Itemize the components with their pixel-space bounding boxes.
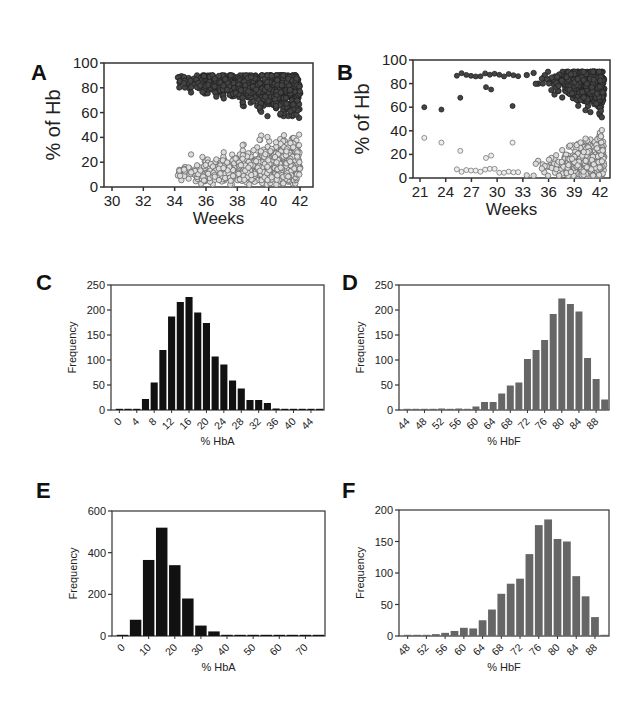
hba-point <box>516 170 521 175</box>
y-tick-label: 100 <box>375 567 393 579</box>
hbf-point <box>580 89 585 94</box>
histogram-bar <box>203 323 210 410</box>
histogram-bar <box>117 635 128 636</box>
x-tick-label: 40 <box>215 641 232 658</box>
x-tick-label: 33 <box>515 183 532 200</box>
histogram-bar <box>212 357 219 411</box>
x-tick-label: 52 <box>429 415 446 432</box>
hba-point <box>575 163 580 168</box>
histogram-bar <box>313 635 324 636</box>
hba-point <box>458 148 463 153</box>
x-tick-label: 56 <box>446 415 463 432</box>
histogram-bar <box>413 635 421 636</box>
histogram-bar <box>208 631 219 636</box>
hbf-point <box>556 83 561 88</box>
hba-point <box>295 154 300 159</box>
x-tick-label: 68 <box>498 415 515 432</box>
histogram-bar <box>125 409 132 410</box>
y-tick-label: 50 <box>381 599 393 611</box>
hba-point <box>214 157 219 162</box>
x-axis-label: % HbA <box>201 661 236 673</box>
x-tick-label: 24 <box>437 183 454 200</box>
hba-point <box>539 166 544 171</box>
hba-point <box>599 159 604 164</box>
hbf-point <box>591 77 596 82</box>
y-tick-label: 80 <box>390 75 407 92</box>
histogram-bar <box>290 409 297 410</box>
hbf-point <box>506 72 511 77</box>
histogram-bar <box>421 409 428 410</box>
histogram-bar <box>238 389 245 411</box>
hbf-point <box>205 82 210 87</box>
hba-point <box>569 156 574 161</box>
hba-point <box>600 148 605 153</box>
x-tick-label: 34 <box>166 192 183 209</box>
hbf-point <box>599 115 604 120</box>
hbf-point <box>214 94 219 99</box>
hbf-point <box>422 105 427 110</box>
hba-point <box>285 174 290 179</box>
hba-point <box>240 143 245 148</box>
hbf-point <box>238 87 243 92</box>
y-tick-label: 200 <box>375 504 393 516</box>
histogram-bar <box>593 379 600 410</box>
hbf-point <box>221 96 226 101</box>
x-tick-label: 4 <box>129 415 142 428</box>
hbf-point <box>459 71 464 76</box>
hba-point <box>281 181 286 186</box>
hbf-point <box>516 74 521 79</box>
hbf-point <box>281 73 286 78</box>
y-tick-label: 150 <box>87 329 105 341</box>
hbf-point <box>464 72 469 77</box>
hba-point <box>422 135 427 140</box>
x-axis-label: Weeks <box>193 209 245 228</box>
hbf-point <box>240 95 245 100</box>
histogram-bar <box>229 381 236 411</box>
y-tick-label: 80 <box>81 79 98 96</box>
hba-point <box>567 143 572 148</box>
x-tick-label: 84 <box>564 641 581 658</box>
hba-point <box>273 140 278 145</box>
hbf-point <box>221 83 226 88</box>
hbf-point <box>531 70 536 75</box>
hbf-point <box>275 77 280 82</box>
x-tick-label: 39 <box>566 183 583 200</box>
hba-point <box>181 167 186 172</box>
hba-point <box>581 149 586 154</box>
hbf-point <box>492 71 497 76</box>
hba-point <box>268 149 273 154</box>
histogram-bar <box>220 365 227 411</box>
hba-point <box>198 168 203 173</box>
hbf-point <box>489 87 494 92</box>
histogram-bar <box>130 620 141 636</box>
hbf-point <box>511 73 516 78</box>
chart-panel-d: 050100150200250444852566064687276808488%… <box>354 279 609 447</box>
hba-point <box>274 160 279 165</box>
hbf-point <box>569 91 574 96</box>
hba-point <box>228 178 233 183</box>
hbf-point <box>576 103 581 108</box>
hbf-point <box>200 89 205 94</box>
histogram-bar <box>490 402 497 410</box>
hbf-point <box>269 73 274 78</box>
hba-point <box>473 168 478 173</box>
x-tick-label: 44 <box>395 415 412 432</box>
histogram-bar <box>497 594 505 636</box>
hbf-point <box>598 108 603 113</box>
hbf-point <box>439 107 444 112</box>
y-axis-label: Frequency <box>354 547 366 599</box>
histogram-bar <box>441 633 449 636</box>
x-tick-label: 36 <box>198 192 215 209</box>
histogram-bar <box>234 635 245 636</box>
x-tick-label: 42 <box>592 183 609 200</box>
hbf-point <box>473 74 478 79</box>
hba-point <box>246 165 251 170</box>
x-tick-label: 84 <box>567 415 584 432</box>
hba-point <box>464 168 469 173</box>
hba-point <box>212 174 217 179</box>
hba-point <box>253 159 258 164</box>
hba-point <box>556 173 561 178</box>
histogram-bar <box>464 409 471 410</box>
x-tick-label: 16 <box>177 415 194 432</box>
histogram-bar <box>307 409 314 410</box>
